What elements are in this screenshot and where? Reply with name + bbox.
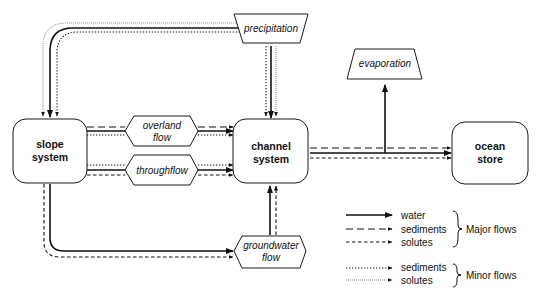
brace-major — [453, 211, 462, 247]
evaporation-node: evaporation — [347, 49, 422, 79]
slope-system-node: slope system — [13, 119, 87, 183]
svg-text:flow: flow — [153, 132, 172, 143]
svg-text:Minor flows: Minor flows — [466, 270, 517, 281]
throughflow-node: throughflow — [125, 155, 198, 185]
hydrological-system-diagram: slope system channel system ocean store … — [0, 0, 540, 293]
precipitation-to-channel-flows — [266, 46, 276, 118]
precipitation-to-slope-flows — [43, 23, 240, 117]
svg-text:system: system — [253, 153, 289, 165]
svg-text:store: store — [477, 153, 503, 165]
svg-text:precipitation: precipitation — [243, 23, 298, 34]
svg-text:channel: channel — [251, 140, 291, 152]
svg-text:ocean: ocean — [475, 140, 505, 152]
legend-major-flows: water sediments solutes Major flows — [346, 210, 517, 248]
channel-system-node: channel system — [233, 119, 308, 183]
svg-text:water: water — [400, 210, 426, 221]
ocean-store-node: ocean store — [452, 122, 528, 184]
svg-text:sediments: sediments — [401, 224, 447, 235]
svg-text:throughflow: throughflow — [136, 165, 188, 176]
svg-text:system: system — [32, 151, 68, 163]
svg-text:sediments: sediments — [401, 262, 447, 273]
svg-text:flow: flow — [262, 252, 281, 263]
svg-text:groundwater: groundwater — [243, 240, 299, 251]
svg-text:overland: overland — [143, 120, 182, 131]
precipitation-node: precipitation — [234, 14, 308, 43]
brace-minor — [453, 264, 461, 287]
legend-minor-flows: sediments solutes Minor flows — [346, 262, 517, 287]
overland-flow-node: overland flow — [125, 116, 198, 146]
svg-text:evaporation: evaporation — [359, 58, 412, 69]
svg-text:solutes: solutes — [401, 275, 433, 286]
svg-text:Major flows: Major flows — [466, 224, 517, 235]
channel-to-ocean-flows — [310, 148, 451, 158]
legend: water sediments solutes Major flows sedi… — [346, 210, 517, 287]
svg-text:slope: slope — [36, 138, 64, 150]
svg-text:solutes: solutes — [401, 237, 433, 248]
groundwater-flow-node: groundwater flow — [234, 236, 306, 268]
